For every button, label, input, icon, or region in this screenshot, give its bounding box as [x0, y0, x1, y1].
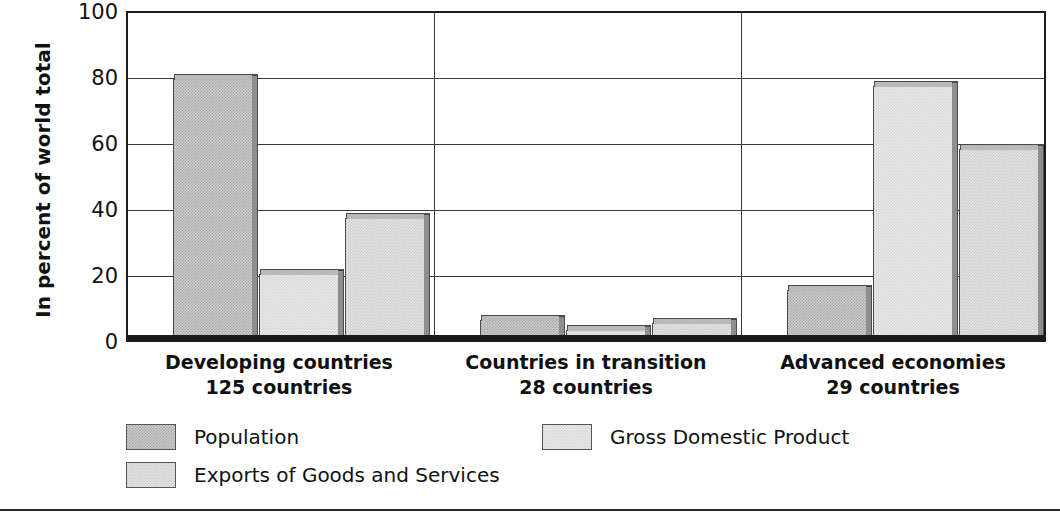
legend-swatch-population-icon	[126, 424, 176, 450]
category-label-line1: Advanced economies	[780, 351, 1006, 373]
bar-group-countries-in-transition	[435, 13, 741, 340]
category-label-line2: 125 countries	[126, 375, 432, 400]
bar-side-face	[952, 82, 958, 339]
category-label-line2: 29 countries	[740, 375, 1046, 400]
bar-population[interactable]	[173, 79, 253, 340]
bar-top-face	[960, 144, 1044, 150]
bar-side-face	[866, 286, 872, 339]
bar-side-face	[252, 75, 258, 339]
bar-exports-of-goods-and-services[interactable]	[345, 218, 425, 340]
category-label-advanced-economies: Advanced economies 29 countries	[740, 350, 1046, 400]
y-tick-label: 100	[38, 0, 118, 24]
bar-exports-of-goods-and-services[interactable]	[959, 149, 1039, 340]
legend-label: Exports of Goods and Services	[194, 463, 500, 487]
x-axis-category-labels: Developing countries 125 countries Count…	[126, 350, 1046, 412]
bar-population[interactable]	[787, 290, 867, 340]
chart-legend: Population Gross Domestic Product Export…	[126, 424, 1046, 494]
bar-top-face	[653, 318, 737, 324]
plot-area	[126, 11, 1046, 342]
chart-figure: In percent of world total 100 80 60 40 2…	[0, 0, 1060, 513]
bar-group-developing-countries	[128, 13, 434, 340]
bar-top-face	[174, 74, 258, 80]
y-axis-tick-labels: 100 80 60 40 20 0	[38, 0, 118, 360]
y-tick-label: 60	[38, 132, 118, 156]
category-label-developing-countries: Developing countries 125 countries	[126, 350, 432, 400]
y-tick-label: 40	[38, 198, 118, 222]
category-label-line1: Countries in transition	[465, 351, 706, 373]
legend-swatch-gross-domestic-product-icon	[542, 424, 592, 450]
legend-label: Population	[194, 425, 299, 449]
category-label-line2: 28 countries	[433, 375, 739, 400]
bar-side-face	[424, 214, 430, 339]
x-axis-baseline	[128, 335, 1044, 340]
category-label-countries-in-transition: Countries in transition 28 countries	[433, 350, 739, 400]
bar-top-face	[260, 269, 344, 275]
y-tick-label: 0	[38, 330, 118, 354]
bar-top-face	[567, 325, 651, 331]
y-tick-label: 20	[38, 264, 118, 288]
y-tick-label: 80	[38, 66, 118, 90]
category-label-line1: Developing countries	[165, 351, 393, 373]
legend-item-exports-of-goods-and-services[interactable]: Exports of Goods and Services	[126, 462, 500, 488]
legend-swatch-exports-icon	[126, 462, 176, 488]
legend-label: Gross Domestic Product	[610, 425, 849, 449]
bar-side-face	[338, 270, 344, 339]
bottom-rule	[0, 509, 1060, 511]
legend-item-population[interactable]: Population	[126, 424, 299, 450]
legend-item-gross-domestic-product[interactable]: Gross Domestic Product	[542, 424, 849, 450]
bar-top-face	[874, 81, 958, 87]
bar-top-face	[788, 285, 872, 291]
bar-top-face	[481, 315, 565, 321]
bar-group-advanced-economies	[742, 13, 1048, 340]
plot-inner	[128, 13, 1044, 340]
bar-gross-domestic-product[interactable]	[873, 86, 953, 340]
bar-top-face	[346, 213, 430, 219]
bar-side-face	[1038, 145, 1044, 339]
bar-gross-domestic-product[interactable]	[259, 274, 339, 340]
